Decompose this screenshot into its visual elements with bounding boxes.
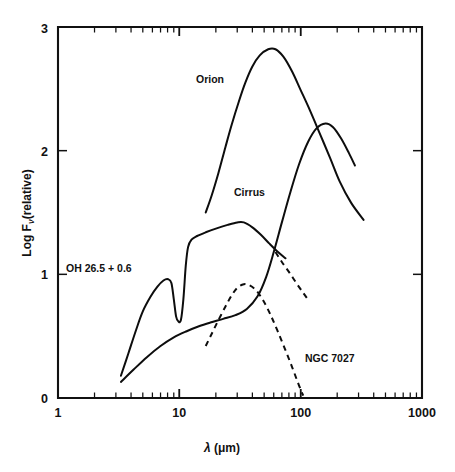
y-axis-title-text: Log Fν(relative) bbox=[20, 169, 36, 256]
xtick-label-1000: 1000 bbox=[408, 406, 436, 420]
curve-cirrus bbox=[121, 123, 355, 381]
ytick-label-2: 2 bbox=[41, 145, 48, 159]
data-curves bbox=[121, 48, 364, 395]
curve-label-orion: Orion bbox=[196, 73, 224, 85]
x-axis-title: λ (μm) bbox=[203, 441, 240, 455]
curve-ngc-7027-upper-branch bbox=[275, 252, 309, 301]
x-axis-units: (μm) bbox=[214, 441, 240, 455]
curve-oh-26-5-0-6 bbox=[121, 222, 286, 376]
xtick-label-1: 1 bbox=[55, 406, 62, 420]
curve-annotations: Orion Cirrus OH 26.5 + 0.6 NGC 7027 bbox=[66, 73, 355, 364]
xtick-label-10: 10 bbox=[172, 406, 186, 420]
y-axis-rel-part: (relative) bbox=[20, 169, 34, 219]
curve-orion bbox=[206, 48, 364, 220]
ytick-label-3: 3 bbox=[41, 22, 48, 36]
ytick-label-1: 1 bbox=[41, 268, 48, 282]
axis-ticks bbox=[58, 27, 422, 398]
curve-label-ngc7027: NGC 7027 bbox=[305, 352, 355, 364]
curve-label-oh265: OH 26.5 + 0.6 bbox=[66, 262, 132, 274]
y-axis-title: Log Fν(relative) bbox=[20, 169, 36, 256]
curve-label-cirrus: Cirrus bbox=[234, 186, 265, 198]
chart-canvas: 1 10 100 1000 0 1 2 3 Orion Cirrus OH 26… bbox=[0, 0, 455, 472]
x-tick-labels: 1 10 100 1000 bbox=[55, 406, 436, 420]
y-axis-log-part: Log F bbox=[20, 224, 34, 257]
plot-frame bbox=[58, 27, 422, 398]
ytick-label-0: 0 bbox=[41, 392, 48, 406]
x-axis-lambda-symbol: λ bbox=[203, 441, 211, 455]
xtick-label-100: 100 bbox=[290, 406, 311, 420]
y-tick-labels: 0 1 2 3 bbox=[41, 22, 48, 406]
figure-container: 1 10 100 1000 0 1 2 3 Orion Cirrus OH 26… bbox=[0, 0, 455, 472]
